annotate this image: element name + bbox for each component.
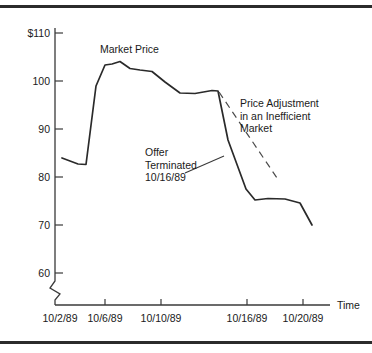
price-adjustment-line-3: Market bbox=[240, 122, 319, 135]
annotation-offer-terminated: Offer Terminated 10/16/89 bbox=[145, 146, 197, 184]
offer-terminated-line-1: Offer bbox=[145, 146, 197, 159]
price-adjustment-line-1: Price Adjustment bbox=[240, 97, 319, 110]
annotation-market-price: Market Price bbox=[100, 43, 159, 56]
x-axis-label-10-10-89: 10/10/89 bbox=[127, 312, 195, 325]
offer-terminated-line-2: Terminated bbox=[145, 159, 197, 172]
price-adjustment-line-2: in an Inefficient bbox=[240, 110, 319, 123]
offer-terminated-line-3: 10/16/89 bbox=[145, 171, 197, 184]
y-axis-label-70: 70 bbox=[14, 219, 50, 232]
y-axis-label-60: 60 bbox=[14, 267, 50, 280]
y-axis-label-90: 90 bbox=[14, 123, 50, 136]
market-price-series bbox=[62, 62, 312, 226]
y-axis-label-110: $110 bbox=[14, 27, 50, 40]
y-axis-label-100: 100 bbox=[14, 75, 50, 88]
annotation-price-adjustment: Price Adjustment in an Inefficient Marke… bbox=[240, 97, 319, 135]
figure-container: $110 100 90 80 70 60 10/2/89 10/6/89 10/… bbox=[0, 0, 372, 353]
x-axis-title: Time bbox=[337, 299, 360, 312]
x-axis-label-10-20-89: 10/20/89 bbox=[269, 312, 337, 325]
y-axis bbox=[50, 28, 60, 305]
y-axis-label-80: 80 bbox=[14, 171, 50, 184]
